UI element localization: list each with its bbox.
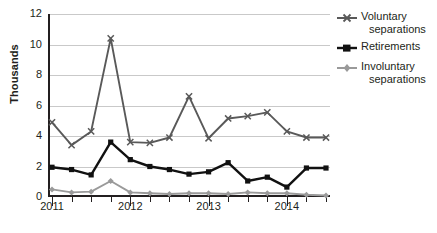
data-point-marker — [225, 191, 231, 197]
line-chart: Thousands 024681012 2011201220132014 Vol… — [0, 0, 437, 233]
data-point-marker — [49, 186, 55, 192]
x-axis-tick-label: 2013 — [179, 200, 239, 212]
data-point-marker — [68, 142, 74, 148]
data-point-marker — [206, 190, 212, 196]
legend-item-voluntary-separations: Voluntary separations — [337, 10, 437, 35]
data-point-marker — [49, 119, 55, 125]
legend: Voluntary separations Retirements Involu… — [337, 10, 437, 90]
x-axis-tick — [248, 197, 249, 202]
data-point-marker — [186, 172, 191, 177]
data-point-marker — [265, 175, 270, 180]
data-point-marker — [323, 165, 328, 170]
x-axis-tick-label: 2011 — [22, 200, 82, 212]
data-point-marker — [166, 191, 172, 197]
data-point-marker — [108, 140, 113, 145]
data-point-marker — [128, 157, 133, 162]
x-axis-tick-label: 2012 — [100, 200, 160, 212]
y-axis-tick-labels: 024681012 — [0, 14, 42, 197]
series-line — [52, 142, 326, 187]
series-lines — [48, 14, 330, 197]
y-axis-tick-label: 12 — [2, 8, 42, 19]
legend-label-line2: separations — [361, 23, 426, 36]
data-point-marker — [89, 172, 94, 177]
data-point-marker — [69, 167, 74, 172]
legend-marker-diamond-icon — [337, 61, 357, 75]
data-point-marker — [323, 192, 329, 198]
y-axis-tick-label: 8 — [2, 69, 42, 80]
y-axis-tick-label: 4 — [2, 130, 42, 141]
y-axis-tick-label: 10 — [2, 39, 42, 50]
legend-label-voluntary-separations: Voluntary separations — [361, 10, 426, 35]
x-axis-tick — [91, 197, 92, 202]
data-point-marker — [167, 167, 172, 172]
x-axis-tick-label: 2014 — [257, 200, 317, 212]
data-point-marker — [147, 164, 152, 169]
y-axis-tick-label: 6 — [2, 100, 42, 111]
legend-label-line2: separations — [361, 73, 426, 86]
data-point-marker — [69, 189, 75, 195]
legend-marker-square-icon — [337, 41, 357, 55]
data-point-marker — [284, 190, 290, 196]
data-point-marker — [49, 165, 54, 170]
series-x — [49, 35, 329, 148]
y-axis-tick-label: 2 — [2, 161, 42, 172]
data-point-marker — [245, 189, 251, 195]
legend-marker-x-icon — [337, 11, 357, 25]
series-square — [49, 140, 328, 190]
data-point-marker — [147, 190, 153, 196]
data-point-marker — [303, 192, 309, 198]
data-point-marker — [226, 160, 231, 165]
legend-label-line1: Voluntary — [361, 10, 407, 22]
data-point-marker — [304, 165, 309, 170]
legend-label-line1: Involuntary — [361, 60, 415, 72]
data-point-marker — [284, 184, 289, 189]
data-point-marker — [264, 190, 270, 196]
legend-label-retirements: Retirements — [361, 40, 420, 53]
legend-item-involuntary-separations: Involuntary separations — [337, 60, 437, 85]
legend-label-involuntary-separations: Involuntary separations — [361, 60, 426, 85]
data-point-marker — [245, 178, 250, 183]
data-point-marker — [206, 169, 211, 174]
x-axis-tick — [169, 197, 170, 202]
data-point-marker — [186, 190, 192, 196]
legend-item-retirements: Retirements — [337, 40, 437, 55]
legend-label-line1: Retirements — [361, 40, 420, 52]
